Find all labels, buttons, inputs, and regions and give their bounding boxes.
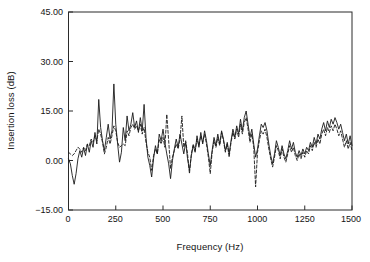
x-tick-label-1000: 1000 [247,214,267,224]
x-tick-label-0: 0 [65,214,70,224]
series-line-predicted [69,114,353,187]
y-axis-tick-labels: 45.00 30.00 15.00 0.00 −15.00 [0,0,63,262]
y-tick-label-15: 15.00 [40,106,63,116]
x-tick-label-250: 250 [108,214,123,224]
x-axis-title-container: Frequency (Hz) [68,236,352,254]
x-tick-label-750: 750 [202,214,217,224]
axes-frame [69,12,353,210]
y-tick-label-30: 30.00 [40,57,63,67]
x-axis-title: Frequency (Hz) [177,241,244,252]
x-tick-label-1250: 1250 [295,214,315,224]
y-tick-label-neg15: −15.00 [35,205,63,215]
y-tick-label-45: 45.00 [40,7,63,17]
y-tick-label-0: 0.00 [45,156,63,166]
axes-ticks [69,12,353,210]
x-tick-label-500: 500 [155,214,170,224]
chart-figure: Insertion loss (dB) 45.00 30.00 15.00 0.… [0,0,370,262]
x-tick-label-1500: 1500 [341,214,361,224]
series-line-measured [69,84,353,184]
data-series-group [69,84,353,187]
